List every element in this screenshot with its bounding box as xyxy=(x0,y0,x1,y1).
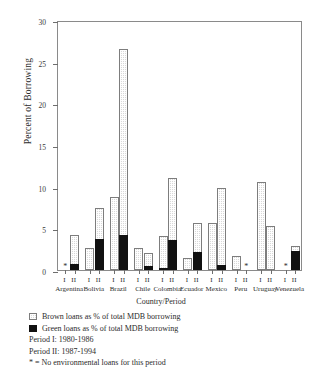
legend-item-brown: Brown loans as % of total MDB borrowing xyxy=(29,311,180,323)
green-swatch-icon xyxy=(29,325,37,332)
y-axis-tick: 25 xyxy=(53,64,58,65)
bar-green xyxy=(217,265,226,270)
bar-green xyxy=(119,235,128,270)
x-axis-tick xyxy=(261,270,262,274)
y-axis-tick-label: 25 xyxy=(39,59,47,68)
x-axis-tick xyxy=(173,270,174,274)
x-axis-tick xyxy=(148,270,149,274)
brown-swatch-icon xyxy=(29,313,37,320)
bar-green xyxy=(95,239,104,270)
x-axis-tick xyxy=(124,270,125,274)
country-label: Venezuela xyxy=(273,285,308,293)
bar-brown xyxy=(134,248,143,270)
x-axis-tick xyxy=(114,270,115,274)
y-axis-tick: 15 xyxy=(53,147,58,148)
period-label: II xyxy=(94,276,103,284)
x-axis-tick xyxy=(90,270,91,274)
legend-item-green: Green loans as % of total MDB borrowing xyxy=(29,323,180,335)
bar-brown xyxy=(217,188,226,271)
period-label: I xyxy=(280,276,289,284)
period-label: II xyxy=(167,276,176,284)
period-label: I xyxy=(84,276,93,284)
bar-brown xyxy=(159,236,168,270)
bar-brown xyxy=(183,258,192,271)
y-axis-tick-label: 20 xyxy=(39,101,47,110)
x-axis-tick xyxy=(295,270,296,274)
period-label: II xyxy=(216,276,225,284)
y-axis-tick: 10 xyxy=(53,189,58,190)
period-label: II xyxy=(69,276,78,284)
plot-area: 051015202530*** xyxy=(57,21,302,271)
x-axis-tick xyxy=(75,270,76,274)
no-data-marker: * xyxy=(281,263,290,271)
bar-brown xyxy=(232,256,241,270)
bar-brown xyxy=(110,197,119,270)
x-axis-tick xyxy=(163,270,164,274)
y-axis-tick-label: 10 xyxy=(39,184,47,193)
period-label: II xyxy=(118,276,127,284)
x-axis-tick xyxy=(271,270,272,274)
y-axis-tick: 0 xyxy=(53,272,58,273)
bar-green xyxy=(159,268,168,271)
x-axis-title: Country/Period xyxy=(0,297,322,306)
chart-legend: Brown loans as % of total MDB borrowing … xyxy=(29,311,180,369)
period-label: I xyxy=(158,276,167,284)
x-axis-tick xyxy=(188,270,189,274)
period-label: II xyxy=(192,276,201,284)
period-label: I xyxy=(231,276,240,284)
period-label: I xyxy=(256,276,265,284)
legend-label-brown: Brown loans as % of total MDB borrowing xyxy=(42,311,180,323)
x-axis-tick xyxy=(212,270,213,274)
bar-brown xyxy=(85,248,94,270)
bar-brown xyxy=(257,182,266,270)
period-label: II xyxy=(265,276,274,284)
period-label: I xyxy=(109,276,118,284)
period-label: I xyxy=(182,276,191,284)
no-data-marker: * xyxy=(61,263,70,271)
y-axis-tick-label: 30 xyxy=(39,18,47,27)
x-axis-tick xyxy=(99,270,100,274)
y-axis-tick-label: 5 xyxy=(42,226,46,235)
period-label: II xyxy=(143,276,152,284)
x-axis-tick xyxy=(197,270,198,274)
y-axis-tick-label: 15 xyxy=(39,143,47,152)
bar-green xyxy=(144,266,153,270)
no-data-marker: * xyxy=(242,263,251,271)
bar-green xyxy=(70,264,79,270)
bar-green xyxy=(291,251,300,270)
period-label: II xyxy=(290,276,299,284)
y-axis-tick: 20 xyxy=(53,105,58,106)
x-axis-tick xyxy=(237,270,238,274)
period-label: I xyxy=(133,276,142,284)
note-period-i: Period I: 1980-1986 xyxy=(29,334,180,346)
y-axis-tick: 5 xyxy=(53,230,58,231)
note-footnote: * = No environmental loans for this peri… xyxy=(29,357,180,369)
x-axis-tick xyxy=(222,270,223,274)
bar-brown xyxy=(208,223,217,270)
y-axis-tick-label: 0 xyxy=(42,268,46,277)
period-label: I xyxy=(60,276,69,284)
bar-brown xyxy=(266,226,275,270)
period-label: I xyxy=(207,276,216,284)
note-period-ii: Period II: 1987-1994 xyxy=(29,346,180,358)
bar-green xyxy=(193,252,202,270)
bar-green xyxy=(168,240,177,270)
y-axis-title: Percent of Borrowing xyxy=(23,11,33,191)
y-axis-tick: 30 xyxy=(53,22,58,23)
x-axis-tick xyxy=(139,270,140,274)
legend-label-green: Green loans as % of total MDB borrowing xyxy=(42,323,178,335)
period-label: II xyxy=(241,276,250,284)
